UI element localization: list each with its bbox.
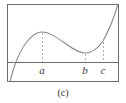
point-label-c: c [101,65,106,76]
point-label-b: b [82,65,88,76]
cubic-function-figure: a b c (c) [0,0,126,103]
point-label-a: a [39,65,45,76]
figure-caption: (c) [57,88,68,98]
